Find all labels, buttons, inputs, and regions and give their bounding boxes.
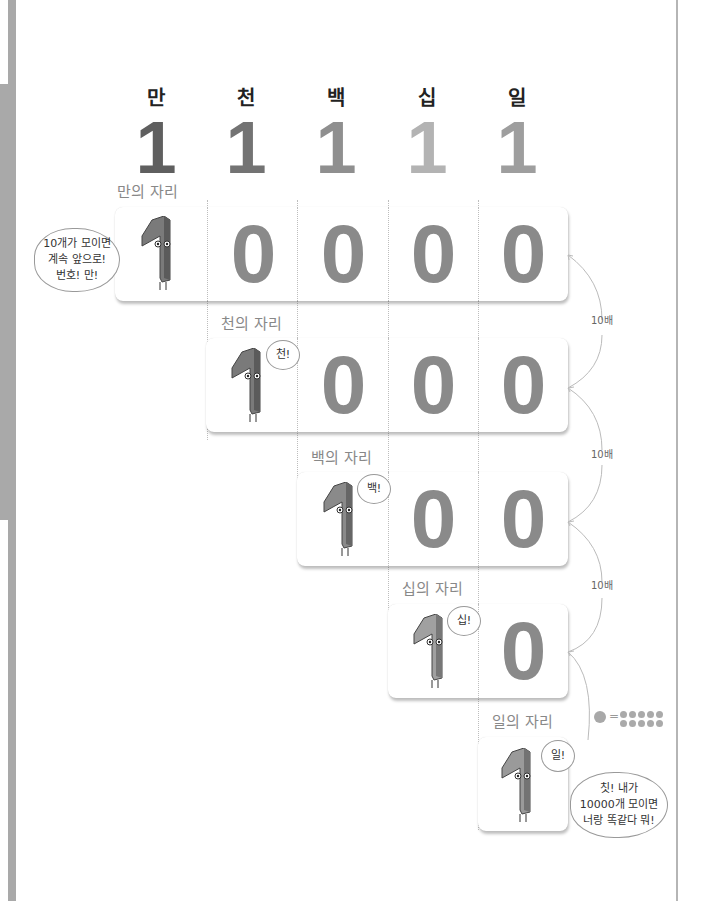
ten-times-label: 10배: [591, 312, 613, 327]
place-label-cheon: 천의 자리: [221, 312, 282, 333]
digit-zero: 0: [388, 474, 479, 564]
digit-zero: 0: [388, 209, 479, 299]
speech-bubble-sip: 십!: [447, 606, 481, 636]
left-page-tab: [0, 84, 16, 520]
place-label-il: 일의 자리: [492, 710, 553, 731]
right-margin-line: [676, 0, 678, 901]
number-one-character-icon: [138, 216, 184, 294]
column-digit-il: 1: [487, 108, 547, 188]
digit-zero: 0: [478, 474, 569, 564]
speech-bubble-final: 칫! 내가 10000개 모이면 너랑 똑같다 뭐!: [570, 772, 668, 838]
place-label-man: 만의 자리: [117, 180, 178, 201]
speech-bubble-cheon: 천!: [266, 340, 300, 370]
place-label-baek: 백의 자리: [311, 446, 372, 467]
column-digit-cheon: 1: [216, 108, 276, 188]
digit-zero: 0: [388, 340, 479, 430]
digit-zero: 0: [478, 606, 569, 696]
place-label-sip: 십의 자리: [402, 577, 463, 598]
digit-zero: 0: [478, 340, 569, 430]
number-one-character-icon: [498, 748, 544, 826]
ten-times-label: 10배: [591, 577, 613, 592]
digit-zero: 0: [298, 340, 389, 430]
column-digit-man: 1: [126, 108, 186, 188]
ten-times-arrows: [560, 220, 640, 780]
digit-zero: 0: [478, 209, 569, 299]
ten-times-label: 10배: [591, 446, 613, 461]
column-digit-baek: 1: [306, 108, 366, 188]
speech-bubble-baek: 백!: [357, 474, 391, 504]
digit-zero: 0: [208, 209, 299, 299]
speech-bubble-man: 10개가 모이면 계속 앞으로! 번호! 만!: [34, 228, 120, 292]
column-digit-sip: 1: [397, 108, 457, 188]
digit-zero: 0: [298, 209, 389, 299]
